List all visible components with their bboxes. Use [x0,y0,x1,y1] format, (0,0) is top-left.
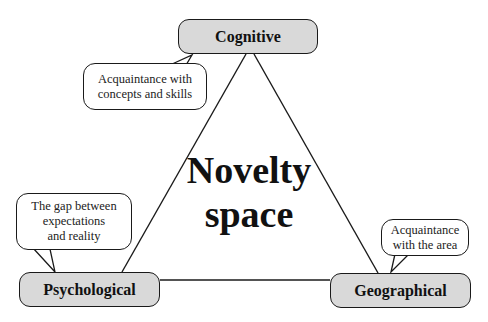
node-geographical-label: Geographical [354,282,446,300]
node-psychological-label: Psychological [43,281,135,299]
callout-line: concepts and skills [98,87,192,102]
callout-cognitive: Acquaintance with concepts and skills [83,63,207,110]
center-label: Novelty space [178,148,320,236]
node-cognitive-label: Cognitive [215,28,281,46]
node-geographical: Geographical [330,273,471,308]
callout-tail-geographical [391,254,408,272]
center-label-line: space [178,192,320,236]
callout-psychological: The gap between expectations and reality [16,193,132,250]
callout-line: Acquaintance with [98,72,192,87]
callout-line: Acquaintance [391,223,460,238]
center-label-line: Novelty [178,148,320,192]
callout-line: The gap between [31,199,116,214]
callout-tail-psychological [33,248,55,272]
callout-line: and reality [31,229,116,244]
callout-line: expectations [31,214,116,229]
callout-line: with the area [391,238,460,253]
callout-geographical: Acquaintance with the area [381,219,469,256]
node-psychological: Psychological [19,272,160,307]
node-cognitive: Cognitive [178,19,318,54]
